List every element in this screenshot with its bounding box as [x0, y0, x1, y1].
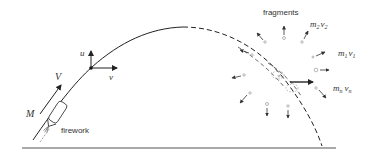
mass-label: M [25, 108, 35, 119]
fragment-band-1 [238, 47, 285, 88]
trajectory-dashed [183, 27, 322, 146]
firework-rocket [40, 100, 68, 142]
v-label: v [109, 72, 113, 82]
m1v1-label: m1v1 [338, 48, 356, 59]
fragment-cluster [286, 84, 298, 92]
fragments-label: fragments [263, 8, 299, 17]
u-label: u [80, 48, 85, 58]
firework-diagram: M V firework u v fragments [0, 0, 376, 161]
m2v2-label: m2v2 [310, 19, 328, 30]
firework-label: firework [61, 126, 90, 135]
velocity-label: V [55, 71, 63, 82]
mnvn-label: mnvn [333, 83, 352, 94]
